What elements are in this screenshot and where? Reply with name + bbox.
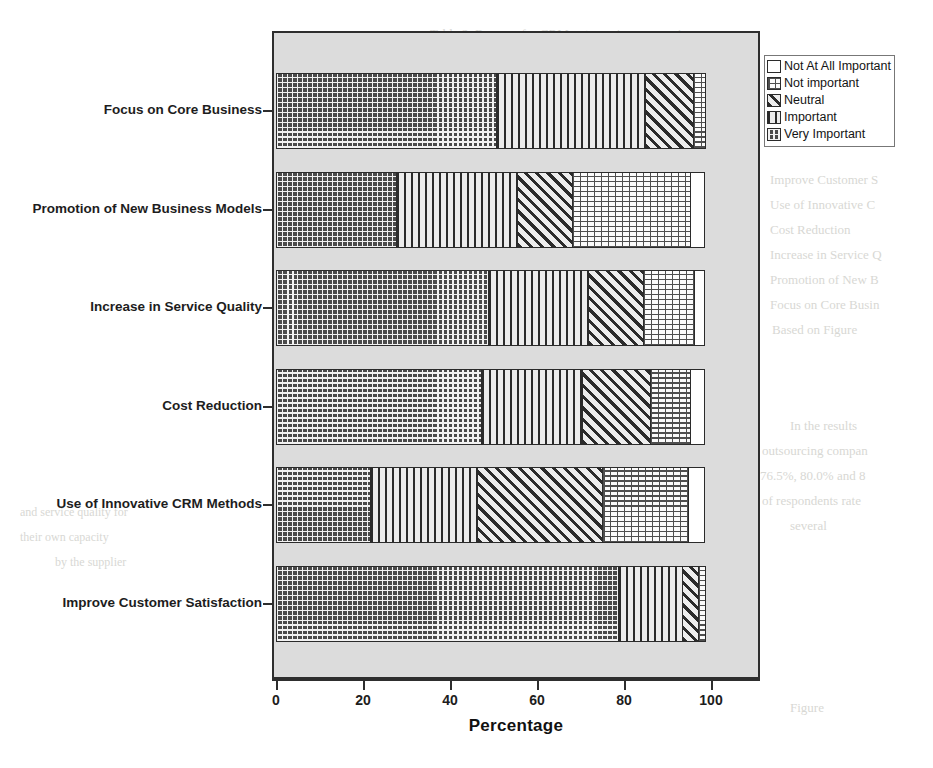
legend-swatch-icon xyxy=(767,111,781,124)
bar-segment xyxy=(276,566,620,642)
bar-row xyxy=(276,172,705,248)
legend-swatch-icon xyxy=(767,60,781,73)
x-axis-tick-label: 20 xyxy=(355,692,371,708)
bar-segment xyxy=(693,73,706,149)
chart-legend: Not At All ImportantNot importantNeutral… xyxy=(764,55,895,147)
y-axis-tick xyxy=(263,307,272,309)
bar-segment xyxy=(276,270,489,346)
stacked-bar-chart: Focus on Core BusinessPromotion of New B… xyxy=(0,0,933,768)
x-axis-tick-label: 100 xyxy=(699,692,722,708)
bar-row xyxy=(276,566,706,642)
legend-item: Very Important xyxy=(767,126,891,143)
legend-label: Important xyxy=(784,111,837,124)
bar-segment xyxy=(477,467,603,543)
legend-label: Neutral xyxy=(784,94,824,107)
legend-swatch-icon xyxy=(767,77,781,90)
bar-segment xyxy=(690,172,705,248)
legend-swatch-icon xyxy=(767,94,781,107)
bar-segment xyxy=(618,566,683,642)
legend-item: Not important xyxy=(767,75,891,92)
legend-item: Neutral xyxy=(767,92,891,109)
x-axis-title: Percentage xyxy=(272,716,760,736)
bar-row xyxy=(276,369,705,445)
bar-segment xyxy=(602,467,689,543)
bar-segment xyxy=(682,566,699,642)
y-axis-tick xyxy=(263,504,272,506)
bar-segment xyxy=(488,270,590,346)
bar-segment xyxy=(276,467,372,543)
category-label: Use of Innovative CRM Methods xyxy=(56,496,262,511)
bar-segment xyxy=(396,172,518,248)
bar-row xyxy=(276,467,705,543)
bar-segment xyxy=(688,467,705,543)
bar-segment xyxy=(588,270,645,346)
x-axis-tick xyxy=(276,681,278,690)
y-axis-tick xyxy=(263,209,272,211)
legend-label: Very Important xyxy=(784,128,865,141)
y-axis-tick xyxy=(263,603,272,605)
bar-segment xyxy=(481,369,583,445)
bar-segment xyxy=(496,73,646,149)
bar-segment xyxy=(276,73,498,149)
x-axis-tick xyxy=(363,681,365,690)
y-axis-tick xyxy=(263,406,272,408)
bar-segment xyxy=(370,467,479,543)
category-label: Increase in Service Quality xyxy=(90,299,262,314)
bar-segment xyxy=(645,73,695,149)
x-axis-tick xyxy=(624,681,626,690)
category-label: Focus on Core Business xyxy=(104,102,262,117)
bar-segment xyxy=(650,369,691,445)
x-axis-tick xyxy=(450,681,452,690)
bar-segment xyxy=(276,369,483,445)
bar-row xyxy=(276,270,705,346)
category-label: Improve Customer Satisfaction xyxy=(62,595,262,610)
x-axis-line xyxy=(272,679,760,681)
x-axis-tick xyxy=(537,681,539,690)
bar-segment xyxy=(698,566,707,642)
bar-row xyxy=(276,73,706,149)
category-label: Promotion of New Business Models xyxy=(32,201,262,216)
legend-label: Not important xyxy=(784,77,859,90)
bar-segment xyxy=(690,369,705,445)
legend-label: Not At All Important xyxy=(784,60,891,73)
x-axis-tick-label: 0 xyxy=(272,692,280,708)
bar-segment xyxy=(517,172,574,248)
bar-segment xyxy=(694,270,705,346)
x-axis-tick-label: 40 xyxy=(442,692,458,708)
category-label: Cost Reduction xyxy=(162,398,262,413)
x-axis-tick-label: 80 xyxy=(616,692,632,708)
bar-segment xyxy=(572,172,692,248)
bar-segment xyxy=(276,172,398,248)
bar-segment xyxy=(643,270,695,346)
x-axis-tick-label: 60 xyxy=(529,692,545,708)
bar-segment xyxy=(582,369,652,445)
legend-item: Important xyxy=(767,109,891,126)
y-axis-tick xyxy=(263,110,272,112)
legend-swatch-icon xyxy=(767,128,781,141)
legend-item: Not At All Important xyxy=(767,58,891,75)
x-axis-tick xyxy=(711,681,713,690)
